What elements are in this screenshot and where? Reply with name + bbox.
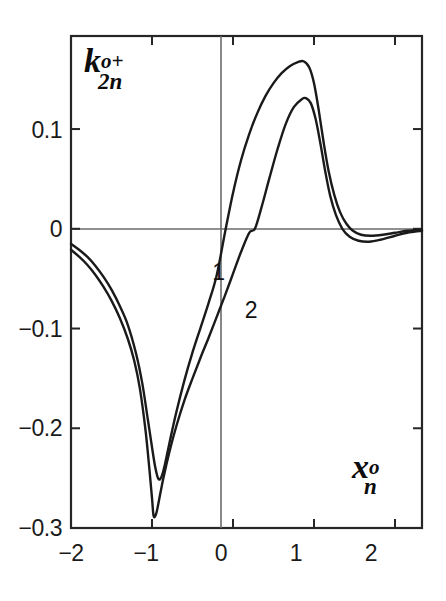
x-axis-title-subscript: n: [364, 474, 377, 499]
x-axis-title: xo n: [352, 452, 380, 495]
xtick-label-4: 2: [341, 540, 401, 567]
y-axis-title: ko+ 2n: [84, 46, 123, 90]
curve-label-2: 2: [245, 297, 258, 324]
xtick-label-1: −1: [116, 540, 176, 567]
xtick-label-0: −2: [41, 540, 101, 567]
ytick-label-4: −0.3: [0, 515, 62, 542]
ytick-label-3: −0.2: [0, 415, 62, 442]
ytick-label-1: 0: [0, 216, 62, 243]
ytick-label-0: 0.1: [0, 117, 62, 144]
data-curves: [71, 61, 422, 517]
chart-figure: 0.1 0 −0.1 −0.2 −0.3 −2 −1 0 1 2 ko+ 2n …: [0, 0, 446, 601]
xtick-label-3: 1: [266, 540, 326, 567]
y-axis-title-subscript: 2n: [98, 69, 122, 94]
xtick-label-2: 0: [191, 540, 251, 567]
curve-label-1: 1: [212, 259, 225, 286]
plot-area: [0, 0, 446, 601]
ytick-label-2: −0.1: [0, 316, 62, 343]
curve-1: [71, 61, 422, 480]
